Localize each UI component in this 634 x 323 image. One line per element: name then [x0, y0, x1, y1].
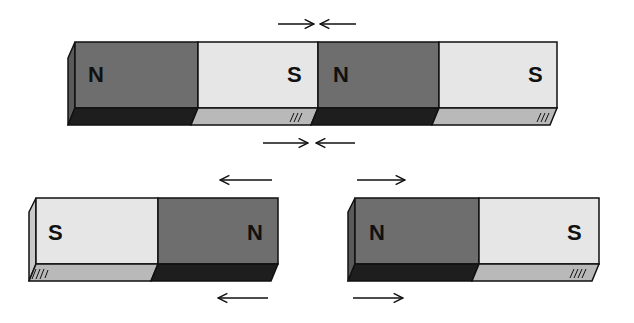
top-bottom-s2	[432, 108, 557, 125]
pole-label-n: N	[333, 62, 349, 87]
top-bottom-n1	[68, 108, 198, 125]
pole-label-n: N	[88, 62, 104, 87]
top-bottom-n2	[311, 108, 439, 125]
pole-label-s: S	[567, 220, 582, 245]
bottom-right-magnet: N S	[348, 180, 599, 298]
bottom-face-s	[29, 264, 158, 281]
pole-label-s: S	[287, 62, 302, 87]
pole-label-n: N	[247, 220, 263, 245]
bottom-face-n	[151, 264, 278, 281]
top-magnet-assembly: N S N S	[68, 24, 557, 143]
bottom-face-n	[348, 264, 479, 281]
bottom-left-magnet: S N	[29, 180, 278, 298]
magnet-diagram: N S N S S N N S	[0, 0, 634, 323]
pole-label-s: S	[528, 62, 543, 87]
top-bottom-s1	[191, 108, 318, 125]
pole-label-n: N	[369, 220, 385, 245]
pole-label-s: S	[48, 220, 63, 245]
